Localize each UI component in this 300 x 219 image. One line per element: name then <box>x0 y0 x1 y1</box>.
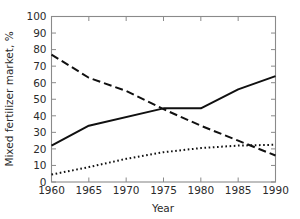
x-axis-tick-marks <box>52 17 276 183</box>
y-tick-label-60: 60 <box>33 77 46 89</box>
y-tick-label-70: 70 <box>33 60 46 72</box>
y-tick-label-20: 20 <box>33 143 46 155</box>
y-tick-label-40: 40 <box>33 110 46 122</box>
y-axis-tick-labels: 0102030405060708090100 <box>26 10 46 188</box>
data-series-layer <box>52 55 276 175</box>
x-axis-tick-labels: 1960196519701975198019851990 <box>38 184 289 196</box>
series-line-dotted-series <box>52 145 276 175</box>
series-line-solid-series <box>52 76 276 146</box>
y-axis-tick-marks <box>52 17 276 183</box>
line-chart-canvas: 1960196519701975198019851990 01020304050… <box>0 0 300 219</box>
x-tick-label-1975: 1975 <box>150 184 177 196</box>
y-tick-label-90: 90 <box>33 27 46 39</box>
y-axis-title: Mixed fertilizer market, % <box>3 31 15 166</box>
series-line-dashed-series <box>52 55 276 156</box>
y-tick-label-80: 80 <box>33 43 46 55</box>
y-tick-label-0: 0 <box>40 176 47 188</box>
x-tick-label-1990: 1990 <box>262 184 289 196</box>
y-tick-label-50: 50 <box>33 93 46 105</box>
y-tick-label-30: 30 <box>33 126 46 138</box>
chart-figure: 1960196519701975198019851990 01020304050… <box>0 0 300 219</box>
y-tick-label-100: 100 <box>26 10 46 22</box>
plot-frame <box>52 17 276 183</box>
x-tick-label-1980: 1980 <box>187 184 214 196</box>
x-tick-label-1970: 1970 <box>113 184 140 196</box>
y-tick-label-10: 10 <box>33 159 46 171</box>
axes-box-spine <box>52 17 276 183</box>
x-tick-label-1965: 1965 <box>75 184 102 196</box>
x-axis-title: Year <box>151 202 175 214</box>
x-tick-label-1985: 1985 <box>225 184 252 196</box>
